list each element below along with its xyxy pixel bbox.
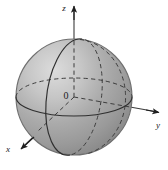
x-axis-arrow (21, 137, 34, 149)
sphere-coordinate-figure: z y x 0 (0, 0, 168, 170)
y-axis-arrow (146, 110, 159, 113)
origin-label: 0 (64, 90, 69, 101)
sphere-diagram-svg: z y x 0 (0, 0, 168, 170)
x-axis-label: x (5, 144, 10, 154)
z-axis-label: z (61, 3, 66, 13)
y-axis-label: y (155, 120, 160, 130)
